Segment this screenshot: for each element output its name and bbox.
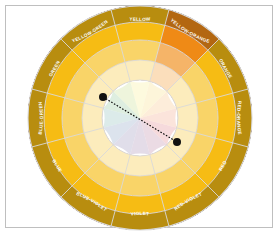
complement-point-b[interactable] [173, 138, 181, 146]
segment-label-yellow: YELLOW [129, 16, 151, 22]
complement-point-a[interactable] [99, 93, 107, 101]
color-wheel-figure: YELLOWYELLOW-GREENGREENBLUE-GREENBLUEBLU… [0, 0, 280, 235]
wheel-canvas: YELLOWYELLOW-GREENGREENBLUE-GREENBLUEBLU… [0, 0, 280, 235]
color-wheel-svg[interactable]: YELLOWYELLOW-GREENGREENBLUE-GREENBLUEBLU… [0, 0, 280, 235]
segment-label-violet: VIOLET [130, 211, 149, 216]
